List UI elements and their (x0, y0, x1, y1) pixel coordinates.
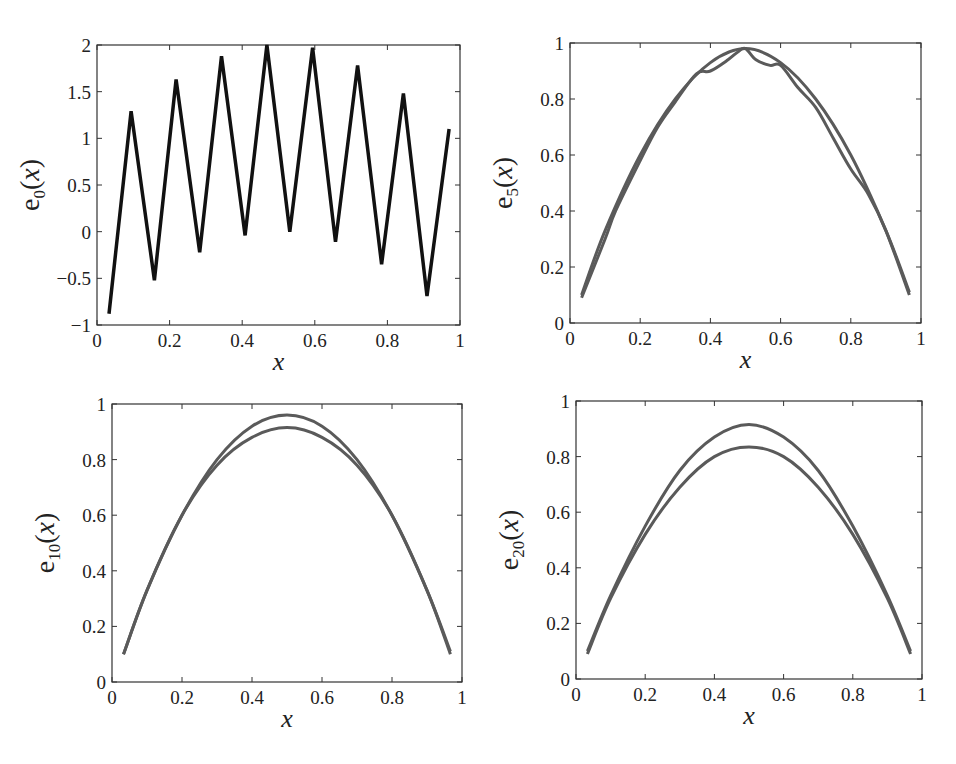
x-tick-label: 0 (107, 687, 117, 708)
y-tick-label: 1 (82, 128, 92, 149)
x-tick-label: 0.4 (703, 684, 727, 705)
x-axis-label: x (739, 345, 752, 374)
y-tick-label: 2 (82, 35, 92, 56)
y-tick-label: 1.5 (67, 82, 91, 103)
axes-frame (576, 401, 922, 679)
x-tick-label: 0.4 (230, 330, 254, 351)
y-tick-label: 0 (82, 222, 92, 243)
y-axis-label: e5(x) (487, 157, 522, 209)
y-axis-label: e0(x) (14, 159, 49, 211)
x-tick-label: 1 (916, 328, 926, 349)
y-tick-label: −0.5 (57, 268, 91, 289)
series-line-lower (124, 428, 451, 655)
y-tick-label: 1 (555, 33, 565, 54)
y-tick-label: 0.2 (540, 257, 564, 278)
series-line-lower (587, 447, 910, 654)
x-tick-label: 0.6 (769, 328, 793, 349)
x-tick-label: 0 (92, 330, 102, 351)
y-tick-label: 0.4 (546, 558, 570, 579)
y-tick-label: 0.5 (67, 175, 91, 196)
x-tick-label: 0.2 (170, 687, 194, 708)
y-tick-label: 0 (97, 672, 107, 693)
x-axis-label: x (742, 701, 755, 730)
x-tick-label: 0.2 (633, 684, 657, 705)
x-tick-label: 0.4 (240, 687, 264, 708)
x-axis-label: x (272, 347, 285, 376)
figure: 00.20.40.60.81−1−0.500.511.52xe0(x)00.20… (0, 0, 956, 764)
y-tick-label: 1 (97, 394, 107, 415)
chart-panel-e0: 00.20.40.60.81−1−0.500.511.52xe0(x) (14, 35, 465, 376)
series-line-upper (587, 425, 910, 652)
chart-panel-e10: 00.20.40.60.8100.20.40.60.81xe10(x) (29, 394, 467, 733)
y-axis-label: e20(x) (493, 510, 528, 571)
x-tick-label: 1 (457, 687, 467, 708)
y-axis-label: e10(x) (29, 513, 64, 574)
x-tick-label: 0.4 (699, 328, 723, 349)
y-tick-label: 0.6 (546, 502, 570, 523)
x-tick-label: 0.6 (772, 684, 796, 705)
y-tick-label: 0.4 (540, 201, 564, 222)
x-tick-label: 0.8 (841, 684, 865, 705)
y-tick-label: 0.8 (540, 89, 564, 110)
x-tick-label: 1 (917, 684, 927, 705)
y-tick-label: 0.6 (82, 505, 106, 526)
y-tick-label: 0.2 (82, 616, 106, 637)
y-tick-label: 1 (561, 391, 571, 412)
x-axis-label: x (280, 704, 293, 733)
x-tick-label: 0 (565, 328, 575, 349)
y-tick-label: 0.6 (540, 145, 564, 166)
chart-panel-e5: 00.20.40.60.8100.20.40.60.81xe5(x) (487, 33, 926, 374)
y-tick-label: −1 (71, 315, 91, 336)
series-line-smooth (582, 49, 910, 295)
y-tick-label: 0.4 (82, 561, 106, 582)
x-tick-label: 0.6 (310, 687, 334, 708)
x-tick-label: 0.6 (303, 330, 327, 351)
y-tick-label: 0 (555, 313, 565, 334)
y-tick-label: 0.8 (82, 450, 106, 471)
axes-frame (112, 404, 462, 682)
x-tick-label: 0.2 (158, 330, 182, 351)
x-tick-label: 0.8 (839, 328, 863, 349)
y-tick-label: 0.8 (546, 447, 570, 468)
x-tick-label: 0.8 (380, 687, 404, 708)
x-tick-label: 1 (455, 330, 465, 351)
chart-panel-e20: 00.20.40.60.8100.20.40.60.81xe20(x) (493, 391, 927, 730)
y-tick-label: 0 (561, 669, 571, 690)
series-line-e0 (109, 45, 449, 314)
axes-frame (570, 43, 921, 323)
axes-frame (97, 45, 460, 325)
y-tick-label: 0.2 (546, 613, 570, 634)
x-tick-label: 0.8 (376, 330, 400, 351)
x-tick-label: 0.2 (628, 328, 652, 349)
x-tick-label: 0 (571, 684, 581, 705)
